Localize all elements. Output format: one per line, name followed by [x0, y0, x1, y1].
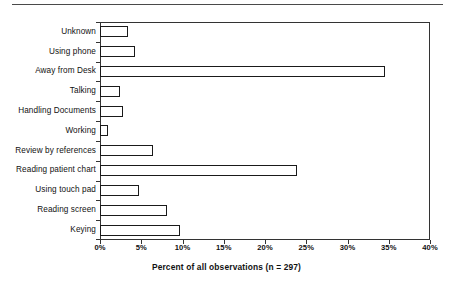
bar-away-from-desk: [100, 66, 385, 77]
bar-reading-patient-chart: [100, 165, 297, 176]
bar-using-phone: [100, 46, 135, 57]
x-axis-tick-label: 25%: [299, 244, 315, 252]
category-label: Working: [0, 121, 96, 141]
x-axis-tick-label: 5%: [136, 244, 147, 252]
x-axis-tick-label: 40%: [422, 244, 438, 252]
x-axis-tick-label: 35%: [381, 244, 397, 252]
category-label: Talking: [0, 81, 96, 101]
bar-review-by-references: [100, 145, 153, 156]
bar-talking: [100, 86, 120, 97]
x-axis-title: Percent of all observations (n = 297): [0, 262, 453, 272]
bar-chart-figure: Unknown Using phone Away from Desk Talki…: [0, 0, 453, 282]
bar-row: [100, 161, 430, 181]
category-axis-labels: Unknown Using phone Away from Desk Talki…: [0, 22, 96, 240]
bar-keying: [100, 225, 180, 236]
x-axis-tick-labels: 0%5%10%15%20%25%30%35%40%: [100, 244, 430, 256]
bar-row: [100, 101, 430, 121]
bar-row: [100, 181, 430, 201]
bar-row: [100, 200, 430, 220]
x-axis-tick-label: 30%: [340, 244, 356, 252]
category-label: Using touch pad: [0, 181, 96, 201]
bar-row: [100, 220, 430, 240]
category-label: Keying: [0, 220, 96, 240]
category-label: Using phone: [0, 42, 96, 62]
bar-row: [100, 121, 430, 141]
bar-row: [100, 42, 430, 62]
bar-handling-documents: [100, 106, 123, 117]
x-axis-tick-label: 15%: [216, 244, 232, 252]
bar-row: [100, 81, 430, 101]
x-axis-tick-label: 10%: [175, 244, 191, 252]
category-label: Unknown: [0, 22, 96, 42]
x-axis-tick-label: 20%: [257, 244, 273, 252]
bars-container: [100, 22, 430, 240]
bar-row: [100, 62, 430, 82]
category-label: Away from Desk: [0, 62, 96, 82]
bar-row: [100, 141, 430, 161]
category-label: Handling Documents: [0, 101, 96, 121]
bar-unknown: [100, 26, 128, 37]
bar-working: [100, 125, 108, 136]
bar-row: [100, 22, 430, 42]
category-label: Reading patient chart: [0, 161, 96, 181]
bar-reading-screen: [100, 205, 167, 216]
category-label: Review by references: [0, 141, 96, 161]
bar-using-touch-pad: [100, 185, 139, 196]
x-axis-tick-label: 0%: [94, 244, 105, 252]
category-label: Reading screen: [0, 200, 96, 220]
